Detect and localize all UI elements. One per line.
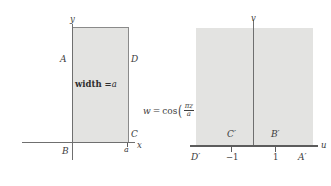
y-axis-label: y — [70, 15, 75, 24]
x-tick-label-a: a — [124, 146, 129, 154]
z-plane-panel: y x A D B C a width =a — [0, 0, 165, 186]
width-annotation: width =a — [75, 80, 117, 89]
formula-equals: = — [151, 106, 163, 116]
w-plane-shaded-half-plane — [196, 28, 313, 145]
image-point-label-d-prime: D′ — [191, 153, 200, 162]
vertex-label-a: A — [60, 55, 67, 64]
v-axis-label: v — [251, 14, 256, 23]
z-strip-top-edge — [72, 27, 129, 28]
vertex-label-c: C — [131, 130, 138, 139]
u-tick-label-plus-one: 1 — [273, 153, 278, 162]
y-axis — [72, 24, 73, 160]
u-axis — [190, 145, 318, 147]
w-plane-panel: v u C′ B′ D′ −1 1 A′ — [165, 0, 331, 186]
u-tick-label-minus-one: −1 — [226, 153, 239, 162]
image-point-label-b-prime: B′ — [271, 130, 280, 139]
width-annotation-var: a — [112, 79, 117, 89]
conformal-mapping-figure: y x A D B C a width =a w = cos ( πz a ) — [0, 0, 331, 186]
vertex-label-d: D — [131, 55, 138, 64]
x-axis — [22, 142, 135, 143]
v-axis — [253, 20, 254, 146]
z-strip-right-edge — [128, 27, 129, 142]
x-axis-label: x — [137, 141, 142, 150]
vertex-label-b: B — [62, 147, 69, 156]
width-annotation-text: width = — [75, 79, 112, 89]
image-point-label-c-prime: C′ — [227, 130, 236, 139]
u-axis-label: u — [321, 141, 326, 150]
image-point-label-a-prime: A′ — [298, 153, 307, 162]
formula-w: w — [143, 106, 151, 116]
